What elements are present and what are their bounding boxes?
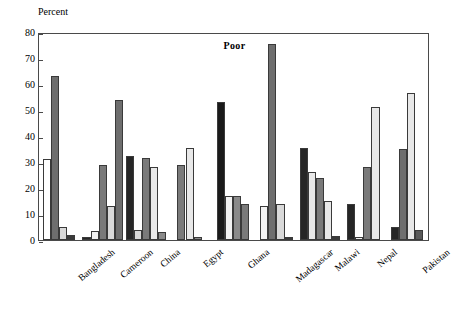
bar — [107, 206, 115, 240]
tick-label: 50 — [25, 105, 35, 116]
bar — [268, 44, 276, 240]
bar — [67, 235, 75, 240]
bar — [59, 227, 67, 240]
bar — [150, 167, 158, 240]
bar — [99, 165, 107, 240]
plot-area: Poor 01020304050607080 — [38, 33, 429, 241]
tick-label: 80 — [25, 27, 35, 38]
bar — [308, 172, 316, 240]
tick-label: 20 — [25, 183, 35, 194]
bar — [363, 167, 371, 240]
bar — [43, 159, 51, 240]
bar — [399, 149, 407, 240]
bar — [332, 236, 340, 240]
bar — [115, 100, 123, 240]
x-axis-label: Madagascar — [294, 247, 336, 284]
x-axis-labels: BangladeshCameroonChinaEgyptGhanaMadagas… — [38, 241, 429, 310]
bar — [82, 237, 90, 240]
bar — [285, 237, 293, 240]
bar — [300, 148, 308, 240]
bar — [355, 237, 363, 240]
bar — [241, 204, 249, 240]
bar — [134, 230, 142, 240]
bar — [260, 206, 268, 240]
x-axis-label: Egypt — [201, 247, 225, 269]
bar — [225, 196, 233, 240]
bar — [51, 76, 59, 240]
x-axis-label: Ghana — [245, 247, 270, 271]
tick-label: 60 — [25, 79, 35, 90]
bar — [126, 156, 134, 241]
x-axis-label: Pakistan — [421, 247, 452, 275]
bar — [194, 237, 202, 240]
tick-label: 0 — [30, 235, 35, 246]
bar — [316, 178, 324, 240]
tick-label: 70 — [25, 53, 35, 64]
x-axis-label: Cameroon — [118, 247, 155, 280]
bar — [391, 227, 399, 240]
tick-label: 40 — [25, 131, 35, 142]
bar — [415, 230, 423, 240]
bars-layer — [39, 34, 428, 240]
y-axis-label: Percent — [38, 6, 68, 17]
bar — [371, 107, 379, 240]
bar — [324, 201, 332, 240]
x-axis-label: China — [158, 247, 182, 269]
bar — [407, 93, 415, 240]
tick-label: 10 — [25, 209, 35, 220]
bar — [158, 232, 166, 240]
bar — [276, 204, 284, 240]
bar — [177, 165, 185, 240]
bar — [217, 102, 225, 240]
x-axis-label: Malawi — [333, 247, 362, 273]
tick-label: 30 — [25, 157, 35, 168]
bar — [233, 196, 241, 240]
x-axis-label: Bangladesh — [76, 247, 116, 283]
bar — [91, 231, 99, 240]
bar — [186, 148, 194, 240]
bar — [142, 158, 150, 240]
bar — [347, 204, 355, 240]
x-axis-label: Nepal — [375, 247, 399, 269]
